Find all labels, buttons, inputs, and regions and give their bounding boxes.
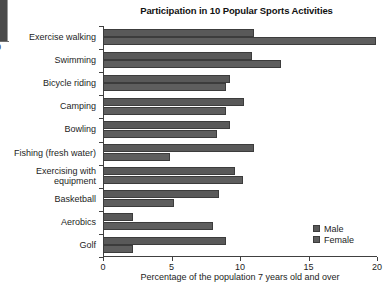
category-label-3: Bicycle riding xyxy=(43,78,96,89)
category-label-7: Exercising with equipment xyxy=(4,166,96,187)
y-axis-tick xyxy=(99,118,103,119)
bar-male-10 xyxy=(103,237,226,245)
y-axis-tick xyxy=(99,95,103,96)
bar-male-2 xyxy=(103,52,252,60)
bar-male-9 xyxy=(103,213,133,221)
bar-female-7 xyxy=(103,176,243,184)
category-label-6: Fishing (fresh water) xyxy=(4,148,96,159)
bar-male-8 xyxy=(103,190,219,198)
y-axis-tick xyxy=(99,211,103,212)
category-axis-labels: Exercise walkingSwimmingBicycle ridingCa… xyxy=(0,26,99,257)
y-axis-tick xyxy=(99,72,103,73)
y-axis-tick xyxy=(99,26,103,27)
y-axis-tick xyxy=(99,49,103,50)
bar-male-7 xyxy=(103,167,235,175)
legend-item-male: Male xyxy=(313,223,354,234)
bar-female-6 xyxy=(103,153,170,161)
y-axis-tick xyxy=(99,165,103,166)
x-axis-tick xyxy=(172,257,173,261)
legend-swatch-male-icon xyxy=(313,225,320,232)
y-axis-tick xyxy=(99,188,103,189)
legend-label-female: Female xyxy=(324,235,354,245)
bar-female-4 xyxy=(103,107,226,115)
category-label-4: Camping xyxy=(60,101,96,112)
bar-female-9 xyxy=(103,222,213,230)
x-axis-label-10: 10 xyxy=(235,262,245,272)
category-label-10: Golf xyxy=(79,240,96,251)
bar-male-4 xyxy=(103,98,244,106)
bar-female-8 xyxy=(103,199,174,207)
x-axis-tick xyxy=(377,257,378,261)
chart-title: Participation in 10 Popular Sports Activ… xyxy=(0,5,383,16)
x-axis-label-5: 5 xyxy=(169,262,174,272)
x-axis-label-15: 15 xyxy=(303,262,313,272)
chart-title-text: Participation in 10 Popular Sports Activ… xyxy=(140,5,333,16)
bar-male-1 xyxy=(103,29,254,37)
x-axis-tick xyxy=(240,257,241,261)
category-label-9: Aerobics xyxy=(61,217,96,228)
chart-screenshot: 0 Participation in 10 Popular Sports Act… xyxy=(0,0,383,287)
x-axis-label-0: 0 xyxy=(100,262,105,272)
x-axis-tick xyxy=(309,257,310,261)
bar-female-1 xyxy=(103,37,376,45)
legend-item-female: Female xyxy=(313,234,354,245)
y-axis-tick xyxy=(99,142,103,143)
legend-label-male: Male xyxy=(324,224,344,234)
legend-swatch-female-icon xyxy=(313,236,320,243)
bar-female-10 xyxy=(103,245,133,253)
x-axis-tick xyxy=(103,257,104,261)
bar-female-5 xyxy=(103,130,217,138)
category-label-5: Bowling xyxy=(64,124,96,135)
bar-male-3 xyxy=(103,75,230,83)
bar-male-6 xyxy=(103,144,254,152)
category-label-1: Exercise walking xyxy=(29,32,96,43)
y-axis-tick xyxy=(99,234,103,235)
bar-male-5 xyxy=(103,121,230,129)
category-label-8: Basketball xyxy=(54,194,96,205)
bar-female-2 xyxy=(103,60,281,68)
bar-female-3 xyxy=(103,83,226,91)
x-axis-caption: Percentage of the population 7 years old… xyxy=(103,272,377,282)
category-label-2: Swimming xyxy=(54,55,96,66)
chart-legend: Male Female xyxy=(313,223,354,245)
x-axis-label-20: 20 xyxy=(372,262,382,272)
